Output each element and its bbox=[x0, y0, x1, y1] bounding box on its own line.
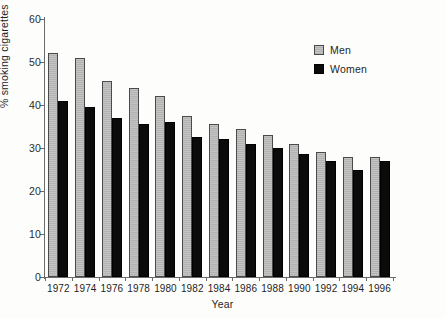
legend-item-label: Men bbox=[330, 44, 351, 56]
legend-item: Women bbox=[314, 61, 404, 77]
bar-women bbox=[326, 161, 336, 277]
x-tick-mark bbox=[393, 277, 394, 281]
x-tick-label: 1982 bbox=[181, 283, 204, 294]
bar-men bbox=[209, 124, 219, 277]
y-tick-label: 30 bbox=[29, 142, 41, 154]
bar-men bbox=[182, 116, 192, 277]
x-tick-mark bbox=[45, 277, 46, 281]
x-tick-mark bbox=[366, 277, 367, 281]
x-tick-mark bbox=[99, 277, 100, 281]
gray-swatch-icon bbox=[314, 45, 324, 55]
legend-item: Men bbox=[314, 42, 404, 58]
y-tick-label: 60 bbox=[29, 13, 41, 25]
x-tick-label: 1990 bbox=[288, 283, 311, 294]
x-tick-label: 1976 bbox=[101, 283, 124, 294]
x-tick-mark bbox=[152, 277, 153, 281]
x-axis-title: Year bbox=[0, 298, 445, 310]
smoking-prevalence-bar-chart: % smoking cigarettes 0102030405060 19721… bbox=[0, 0, 445, 318]
bar-men bbox=[316, 152, 326, 277]
x-tick-mark bbox=[286, 277, 287, 281]
x-tick-mark bbox=[206, 277, 207, 281]
bar-women bbox=[192, 137, 202, 277]
bar-men bbox=[343, 157, 353, 277]
legend-item-label: Women bbox=[330, 63, 367, 75]
y-axis-title: % smoking cigarettes bbox=[0, 4, 10, 108]
bar-men bbox=[263, 135, 273, 277]
bar-men bbox=[236, 129, 246, 277]
y-tick-label: 0 bbox=[35, 271, 41, 283]
x-tick-label: 1986 bbox=[234, 283, 257, 294]
bar-men bbox=[370, 157, 380, 277]
bar-men bbox=[289, 144, 299, 277]
x-tick-label: 1984 bbox=[208, 283, 231, 294]
x-tick-mark bbox=[179, 277, 180, 281]
y-tick-label: 20 bbox=[29, 185, 41, 197]
bar-women bbox=[273, 148, 283, 277]
x-tick-mark bbox=[72, 277, 73, 281]
x-tick-label: 1978 bbox=[127, 283, 150, 294]
bar-women bbox=[85, 107, 95, 277]
x-tick-label: 1992 bbox=[315, 283, 338, 294]
bar-men bbox=[155, 96, 165, 277]
bar-women bbox=[58, 101, 68, 277]
bar-women bbox=[246, 144, 256, 277]
x-tick-mark bbox=[313, 277, 314, 281]
x-tick-label: 1974 bbox=[74, 283, 97, 294]
x-tick-mark bbox=[125, 277, 126, 281]
x-tick-label: 1996 bbox=[368, 283, 391, 294]
x-tick-label: 1980 bbox=[154, 283, 177, 294]
x-tick-mark bbox=[339, 277, 340, 281]
chart-legend: MenWomen bbox=[314, 42, 404, 80]
bar-women bbox=[380, 161, 390, 277]
y-tick-label: 50 bbox=[29, 56, 41, 68]
x-tick-label: 1988 bbox=[261, 283, 284, 294]
bar-men bbox=[129, 88, 139, 277]
bar-women bbox=[139, 124, 149, 277]
x-tick-mark bbox=[259, 277, 260, 281]
x-tick-mark bbox=[232, 277, 233, 281]
y-tick-label: 40 bbox=[29, 99, 41, 111]
bar-men bbox=[102, 81, 112, 277]
bar-women bbox=[353, 170, 363, 278]
bar-men bbox=[75, 58, 85, 277]
bar-women bbox=[112, 118, 122, 277]
bar-women bbox=[219, 139, 229, 277]
x-axis-line bbox=[44, 277, 396, 278]
bar-women bbox=[299, 154, 309, 277]
x-tick-label: 1994 bbox=[342, 283, 365, 294]
bar-men bbox=[48, 53, 58, 277]
bar-women bbox=[165, 122, 175, 277]
black-swatch-icon bbox=[314, 64, 324, 74]
x-tick-label: 1972 bbox=[47, 283, 70, 294]
y-tick-label: 10 bbox=[29, 228, 41, 240]
